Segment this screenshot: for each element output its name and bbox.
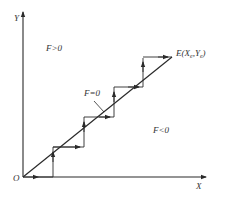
x-axis-label: X — [195, 181, 202, 191]
region-label-f-zero: F=0 — [83, 88, 101, 98]
endpoint-label: E(Xe,Ye) — [175, 48, 206, 59]
region-label-f-negative: F<0 — [152, 125, 170, 135]
y-axis-label: Y — [14, 13, 20, 23]
f-zero-leader — [94, 101, 104, 112]
interpolation-diagram: Y X O F>0 F=0 F<0 E(Xe,Ye) — [0, 0, 227, 201]
region-label-f-positive: F>0 — [45, 43, 63, 53]
origin-label: O — [13, 173, 20, 183]
